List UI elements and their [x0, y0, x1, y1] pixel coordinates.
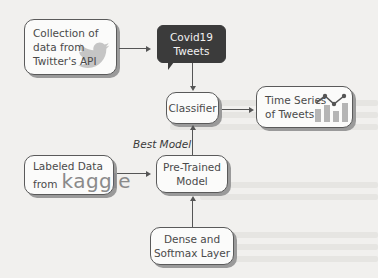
arrowhead-icon [249, 107, 254, 113]
arrow-dense-to-pretrained [192, 200, 193, 228]
node-twitter-api-line1: Collection of [33, 26, 98, 40]
node-pretrained: Pre-Trained Model [156, 155, 228, 193]
node-twitter-api-line2: data from [33, 40, 98, 54]
arrow-api-to-covid [119, 48, 147, 49]
edge-label-best-model: Best Model [133, 138, 191, 150]
node-dense-softmax: Dense and Softmax Layer [150, 227, 234, 265]
node-dense-line2: Softmax Layer [154, 246, 230, 260]
arrowhead-icon [146, 171, 151, 177]
node-twitter-api: Collection of data from Twitter's API [24, 19, 117, 75]
arrowhead-icon [190, 86, 196, 91]
node-covid-line1: Covid19 [170, 30, 213, 44]
node-covid-tweets: Covid19 Tweets [157, 25, 226, 63]
arrowhead-icon [146, 46, 151, 52]
node-covid-line2: Tweets [174, 44, 210, 58]
kaggle-logo: kaggle [61, 173, 131, 189]
arrow-pretrained-to-classifier [192, 129, 193, 155]
node-pretrained-line1: Pre-Trained [163, 160, 221, 174]
arrow-classifier-to-timeseries [222, 109, 250, 110]
node-labeled-data: Labeled Data from kaggle [24, 155, 114, 195]
node-twitter-api-line3: Twitter's API [33, 54, 98, 68]
arrowhead-icon [190, 196, 196, 201]
node-classifier-label: Classifier [169, 101, 217, 115]
node-labeled-from: from [33, 177, 57, 191]
arrowhead-icon [190, 125, 196, 130]
node-time-series: Time Series of Tweets [256, 86, 353, 128]
bar-line-chart-icon [313, 93, 349, 123]
arrow-covid-to-classifier [192, 63, 193, 87]
arrow-labeled-to-pretrained [117, 173, 147, 174]
speech-tail-icon [168, 62, 174, 70]
node-classifier: Classifier [166, 92, 219, 124]
node-pretrained-line2: Model [176, 174, 208, 188]
node-dense-line1: Dense and [164, 232, 220, 246]
